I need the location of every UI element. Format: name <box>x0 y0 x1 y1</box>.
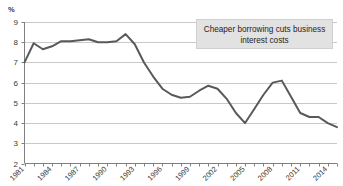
annotation-line-2: interest costs <box>240 36 288 45</box>
annotation-callout: Cheaper borrowing cuts business interest… <box>197 20 333 49</box>
y-tick-label: 4 <box>14 119 19 128</box>
y-tick-label: 6 <box>14 79 19 88</box>
y-axis-unit-label: % <box>8 5 15 14</box>
chart-container: % 23456789 19811984198719901993199619992… <box>0 0 343 186</box>
y-tick-label: 7 <box>14 58 19 67</box>
y-tick-label: 5 <box>14 99 19 108</box>
line-chart: % 23456789 19811984198719901993199619992… <box>0 0 343 186</box>
y-tick-label: 8 <box>14 38 19 47</box>
annotation-line-1: Cheaper borrowing cuts business <box>204 25 326 34</box>
y-tick-label: 3 <box>14 139 19 148</box>
y-tick-label: 9 <box>14 18 19 27</box>
